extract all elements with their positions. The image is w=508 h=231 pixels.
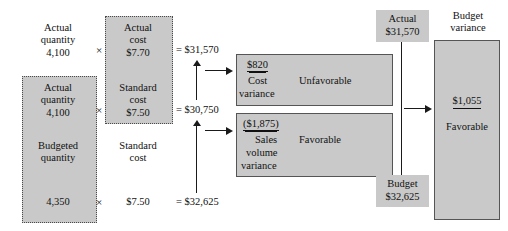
cost-variance-arrow-right-icon: [226, 67, 233, 75]
budget-variance-title: Budget variance: [432, 10, 504, 35]
actual-total-box: Actual $31,570: [376, 10, 429, 42]
sales-variance-amount-wrap: ($1,875): [243, 118, 279, 131]
cost-variance-amount: $820: [247, 59, 268, 72]
equals-icon-3: =: [176, 196, 182, 207]
multiply-icon-3: ×: [92, 196, 106, 208]
cost-row-1-label-line2: cost: [105, 34, 171, 46]
sales-variance-verdict: Favorable: [299, 134, 341, 146]
cost-row-1: Actual cost $7.70: [105, 22, 171, 59]
budget-variance-amount-wrap: $1,055: [435, 95, 499, 109]
budget-total-label: Budget: [376, 178, 429, 190]
total-row-2-value: $30,750: [185, 104, 219, 115]
quantity-row-3-label-line2: quantity: [18, 152, 98, 164]
cost-variance-box: $820 Cost variance Unfavorable: [236, 54, 393, 106]
sales-volume-variance-box: ($1,875) Sales volume variance Favorable: [236, 113, 393, 177]
quantity-row-2-label-line1: Actual: [18, 82, 98, 94]
budget-variance-title-line1: Budget: [432, 10, 504, 22]
total-row-1-value: $31,570: [185, 44, 219, 55]
equals-icon-2: =: [176, 104, 182, 115]
sales-variance-arrow-line: [205, 130, 227, 131]
variance-diagram: Actual quantity 4,100 Actual quantity 4,…: [0, 0, 508, 231]
budget-variance-box: $1,055 Favorable: [434, 40, 500, 220]
cost-variance-arrow-up-icon: [193, 60, 201, 66]
cost-variance-connector-line: [196, 66, 197, 100]
cost-row-3-label-line2: cost: [105, 152, 171, 164]
quantity-row-1-label-line1: Actual: [18, 22, 98, 34]
total-row-3-value: $32,625: [185, 196, 219, 207]
total-row-2: = $30,750: [176, 104, 219, 116]
budget-variance-arrow-right-icon: [425, 105, 432, 113]
cost-row-3-label-line1: Standard: [105, 140, 171, 152]
budget-total-box: Budget $32,625: [376, 175, 429, 207]
cost-row-2: Standard cost $7.50: [105, 82, 171, 119]
budget-total-value: $32,625: [376, 191, 429, 203]
budget-variance-verdict: Favorable: [435, 121, 499, 133]
actual-total-label: Actual: [376, 13, 429, 25]
cost-row-1-label-line1: Actual: [105, 22, 171, 34]
quantity-row-1: Actual quantity 4,100: [18, 22, 98, 59]
cost-variance-arrow-line: [205, 70, 227, 71]
multiply-icon-2: ×: [92, 104, 106, 116]
cost-row-2-value: $7.50: [105, 107, 171, 119]
cost-row-2-label-line1: Standard: [105, 82, 171, 94]
sales-variance-arrow-right-icon: [226, 127, 233, 135]
sales-variance-name-line1: Sales: [255, 134, 277, 146]
cost-row-2-label-line2: cost: [105, 94, 171, 106]
cost-row-1-value: $7.70: [105, 47, 171, 59]
sales-variance-amount: ($1,875): [243, 118, 279, 131]
budget-variance-arrow-line: [404, 108, 426, 109]
sales-variance-name-line3: variance: [241, 160, 277, 172]
budget-variance-connector-line: [401, 42, 402, 175]
cost-row-3-value: $7.50: [105, 196, 171, 208]
sales-variance-arrow-up-icon: [193, 120, 201, 126]
quantity-row-2: Actual quantity 4,100: [18, 82, 98, 119]
sales-variance-connector-line: [196, 126, 197, 193]
total-row-1: = $31,570: [176, 44, 219, 56]
equals-icon-1: =: [176, 44, 182, 55]
quantity-row-3-value: 4,350: [18, 196, 98, 208]
sales-variance-name-line2: volume: [246, 147, 278, 159]
quantity-row-3-label-line1: Budgeted: [18, 140, 98, 152]
quantity-row-1-label-line2: quantity: [18, 34, 98, 46]
quantity-row-2-value: 4,100: [18, 107, 98, 119]
budget-variance-title-line2: variance: [432, 22, 504, 34]
total-row-3: = $32,625: [176, 196, 219, 208]
cost-variance-name-line2: variance: [239, 88, 275, 100]
actual-total-value: $31,570: [376, 26, 429, 38]
cost-variance-verdict: Unfavorable: [299, 75, 351, 87]
quantity-row-1-value: 4,100: [18, 47, 98, 59]
quantity-row-2-label-line2: quantity: [18, 94, 98, 106]
quantity-row-3: Budgeted quantity: [18, 140, 98, 165]
cost-variance-amount-wrap: $820: [247, 59, 268, 72]
cost-variance-name-line1: Cost: [248, 75, 267, 87]
cost-row-3: Standard cost: [105, 140, 171, 165]
budget-variance-amount: $1,055: [453, 95, 482, 109]
multiply-icon-1: ×: [92, 44, 106, 56]
